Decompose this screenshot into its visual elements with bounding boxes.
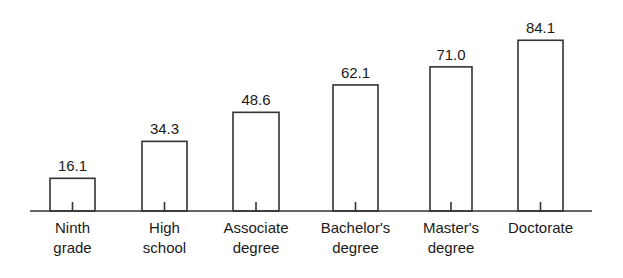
category-label-line: degree: [233, 239, 280, 256]
category-label-6: Doctorate: [508, 219, 573, 236]
bar-5: [430, 67, 472, 211]
bar-3: [233, 112, 279, 211]
value-label-2: 34.3: [150, 120, 179, 137]
value-label-4: 62.1: [341, 64, 370, 81]
bar-chart-container: 16.134.348.662.171.084.1 NinthgradeHighs…: [0, 0, 623, 278]
category-label-line: Bachelor's: [321, 219, 391, 236]
bar-6: [518, 40, 563, 211]
category-label-line: High: [149, 219, 180, 236]
category-label-line: degree: [428, 239, 475, 256]
category-label-line: grade: [53, 239, 91, 256]
category-label-line: school: [143, 239, 186, 256]
value-label-1: 16.1: [58, 157, 87, 174]
category-label-line: Doctorate: [508, 219, 573, 236]
bar-chart: 16.134.348.662.171.084.1 NinthgradeHighs…: [0, 0, 623, 278]
value-label-3: 48.6: [241, 91, 270, 108]
bar-2: [142, 141, 187, 211]
category-label-line: Master's: [423, 219, 479, 236]
value-label-6: 84.1: [526, 19, 555, 36]
value-label-5: 71.0: [436, 46, 465, 63]
bar-4: [333, 85, 378, 211]
category-label-line: Associate: [223, 219, 288, 236]
category-label-line: degree: [332, 239, 379, 256]
category-label-line: Ninth: [55, 219, 90, 236]
